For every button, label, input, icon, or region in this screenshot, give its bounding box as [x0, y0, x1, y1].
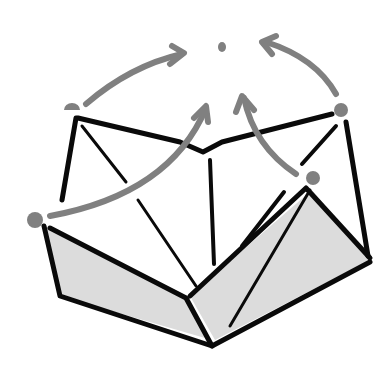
- right-top-corner-dot: [334, 103, 348, 117]
- arrow-right-top: [266, 42, 336, 94]
- left-shaded-flap: [46, 228, 205, 338]
- right-bottom-corner-dot: [306, 171, 320, 185]
- origami-diagram: [0, 0, 388, 368]
- left-top-corner-dot: [64, 103, 80, 110]
- left-bottom-corner-dot: [27, 212, 43, 228]
- arrow-left-top: [86, 54, 182, 104]
- target-point: [218, 42, 226, 52]
